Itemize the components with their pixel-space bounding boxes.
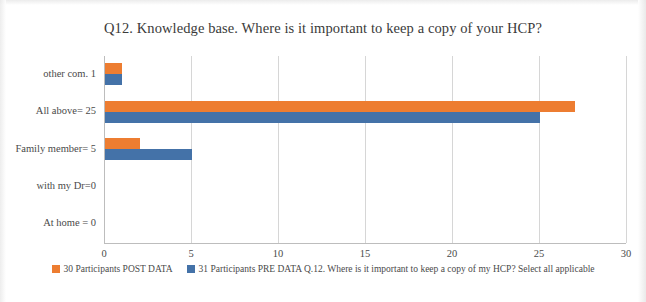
y-axis-category-label: All above= 25 [0,105,96,116]
y-axis-category-label: Family member= 5 [0,143,96,154]
bar-post-data [105,138,140,149]
x-axis-tick-label: 10 [273,248,284,259]
legend-label: 30 Participants POST DATA [64,264,173,274]
x-axis-line [104,243,626,244]
chart-legend: 30 Participants POST DATA31 Participants… [0,264,646,274]
bar-post-data [105,63,122,74]
chart-title: Q12. Knowledge base. Where is it importa… [0,20,646,37]
bar-post-data [105,101,575,112]
gridline [365,56,366,243]
y-axis-category-label: with my Dr=0 [0,180,96,191]
y-axis-category-label: other com. 1 [0,68,96,79]
gridline [626,56,627,243]
x-axis-tick-label: 5 [188,248,193,259]
page-edge-shading-right [638,0,646,302]
plot-area: 051015202530At home = 0with my Dr=0Famil… [104,56,626,243]
page-edge-shading-top [0,0,646,5]
x-axis-tick-label: 30 [621,248,632,259]
chart-container: Q12. Knowledge base. Where is it importa… [0,0,646,302]
x-axis-tick-label: 25 [534,248,545,259]
legend-label: 31 Participants PRE DATA Q.12. Where is … [199,264,595,274]
gridline [539,56,540,243]
x-axis-tick-label: 20 [447,248,458,259]
x-axis-tick-label: 0 [101,248,106,259]
bar-pre-data [105,74,122,85]
bar-pre-data [105,112,540,123]
gridline [278,56,279,243]
x-axis-tick-label: 15 [360,248,371,259]
legend-swatch [187,265,195,273]
legend-item: 31 Participants PRE DATA Q.12. Where is … [187,264,595,274]
y-axis-category-label: At home = 0 [0,217,96,228]
legend-item: 30 Participants POST DATA [52,264,173,274]
legend-swatch [52,265,60,273]
gridline [452,56,453,243]
bar-pre-data [105,149,192,160]
